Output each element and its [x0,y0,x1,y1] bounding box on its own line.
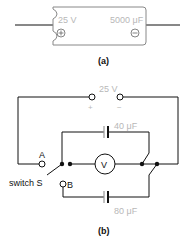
wire-left [18,97,89,164]
capacitor-voltage-label: 25 V [58,15,77,25]
terminal-b-label: B [67,180,73,190]
capacitor-component: 25 V 5000 μF [15,7,180,45]
source-negative-terminal [117,94,123,100]
source-minus-label: − [117,103,122,112]
cap80-label: 80 μF [114,206,138,216]
terminal-a-label: A [39,150,45,160]
diagram-canvas: 25 V 5000 μF (a) [0,0,188,251]
caption-a: (a) [98,56,109,66]
cap40-label: 40 μF [114,121,138,131]
terminal-a [39,161,45,167]
terminal-b [60,181,66,187]
caption-b: (b) [98,226,110,236]
switch-label: switch S [9,178,43,188]
wire-cap40-right [108,132,149,153]
voltmeter-label: V [101,160,107,170]
capacitor-capacitance-label: 5000 μF [110,15,144,25]
source-voltage-label: 25 V [99,84,118,94]
switch-s [47,164,62,175]
source-positive-terminal [89,94,95,100]
source-plus-label: + [88,103,93,112]
wire-cap80-right [108,175,149,197]
